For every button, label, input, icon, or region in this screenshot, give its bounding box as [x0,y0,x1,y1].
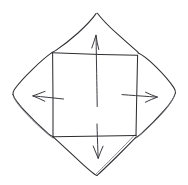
fold-arrow-up-icon [96,35,97,106]
diamond-edge-left-upper-icon [13,52,52,94]
arrow-down-group [93,124,103,158]
diamond-edge-top-right-icon [97,13,138,53]
square-edge-top-icon [52,53,137,56]
diamond-edge-bottom-left-icon [53,137,97,176]
diamond-edge-bottom-right-icon [97,137,136,175]
diamond-edge-right-upper-icon [138,53,175,93]
fold-arrow-up-head-icon [92,35,99,49]
folding-diagram [0,0,188,185]
diamond-edge-left-lower-icon [13,95,53,137]
diamond-edge-top-left-icon [52,13,96,52]
square-edge-bottom-icon [53,135,136,136]
diamond-edge-right-lower-double-icon [135,96,174,138]
diamond-edge-left-lower-double-icon [14,98,54,139]
arrow-left-group [33,91,64,101]
diamond-edge-bottom-right-double-icon [96,135,134,174]
diamond-edge-right-lower-icon [136,93,175,137]
fold-arrow-down-icon [97,124,98,158]
diagram-canvas [0,0,188,185]
arrow-right-group [122,92,157,102]
arrow-up-group [92,35,99,106]
